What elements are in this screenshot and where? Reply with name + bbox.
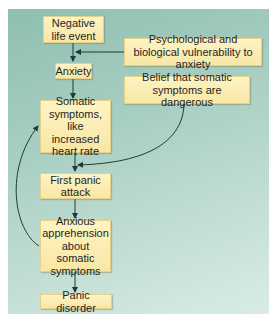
- node-negative-life-event: Negative life event: [43, 16, 104, 43]
- node-label: Somatic symptoms, like increased heart r…: [43, 95, 108, 158]
- node-label: Belief that somatic symptoms are dangero…: [127, 71, 247, 109]
- node-anxiety: Anxiety: [55, 63, 92, 79]
- node-first-panic-attack: First panic attack: [40, 173, 111, 199]
- node-panic-disorder: Panic disorder: [40, 294, 112, 309]
- node-label: Anxious apprehension about somatic sympt…: [42, 215, 109, 278]
- node-label: Panic disorder: [43, 289, 109, 314]
- node-label: Psychological and biological vulnerabili…: [127, 33, 259, 71]
- node-label: First panic attack: [43, 174, 108, 199]
- node-label: Negative life event: [46, 17, 101, 42]
- node-somatic-symptoms: Somatic symptoms, like increased heart r…: [40, 100, 111, 153]
- node-vulnerability: Psychological and biological vulnerabili…: [124, 38, 262, 66]
- arrow-feedback-loop: [16, 126, 39, 246]
- node-anxious-apprehension: Anxious apprehension about somatic sympt…: [40, 220, 111, 272]
- node-belief: Belief that somatic symptoms are dangero…: [124, 76, 250, 104]
- node-label: Anxiety: [55, 65, 91, 78]
